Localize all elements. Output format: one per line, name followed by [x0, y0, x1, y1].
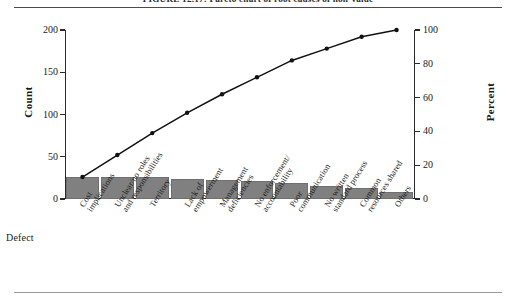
left-tick-label: 150 — [18, 67, 58, 77]
left-tick-label: 50 — [18, 152, 58, 162]
right-tick-label: 40 — [423, 126, 453, 136]
right-tick-label: 100 — [423, 25, 453, 35]
category-labels: Cost implicationsUnclear/no roles and re… — [0, 200, 516, 295]
right-tick-label: 80 — [423, 59, 453, 69]
top-rule — [14, 7, 502, 8]
right-tick-mark — [415, 97, 420, 98]
right-tick-mark — [415, 165, 420, 166]
right-axis-line — [414, 30, 415, 199]
left-tick-label: 100 — [18, 110, 58, 120]
right-axis-title: Percent — [484, 62, 496, 142]
right-tick-mark — [415, 131, 420, 132]
figure-caption: FIGURE 12.17: Pareto chart of root cause… — [0, 0, 516, 4]
right-tick-mark — [415, 63, 420, 64]
right-tick-label: 20 — [423, 160, 453, 170]
right-tick-mark — [415, 29, 420, 30]
left-tick-label: 200 — [18, 25, 58, 35]
pareto-chart-figure: FIGURE 12.17: Pareto chart of root cause… — [0, 0, 516, 305]
right-tick-label: 60 — [423, 93, 453, 103]
